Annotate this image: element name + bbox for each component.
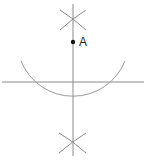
- point-a-label: A: [79, 35, 87, 49]
- construction-diagram: A: [0, 0, 146, 161]
- point-a: [71, 40, 75, 44]
